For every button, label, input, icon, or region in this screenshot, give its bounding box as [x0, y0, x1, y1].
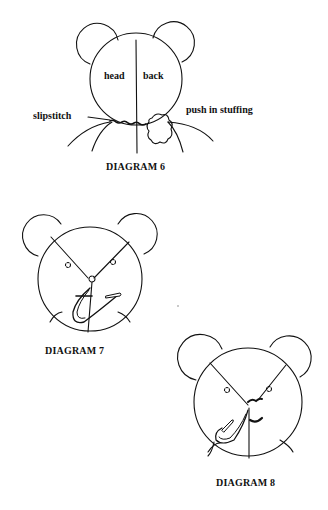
seam-left — [210, 363, 248, 405]
slipstitch-leader — [88, 117, 110, 120]
caption-diagram-8: DIAGRAM 8 — [216, 477, 275, 488]
diagram-8-bear-face — [178, 334, 312, 458]
body-right — [280, 440, 293, 452]
left-ear — [76, 23, 118, 64]
needle-icon — [222, 420, 233, 432]
left-ear — [178, 334, 222, 380]
needle-icon — [106, 293, 121, 298]
label-head: head — [104, 70, 125, 81]
label-back: back — [143, 70, 164, 81]
seam-left — [51, 237, 88, 278]
nose-stitch — [248, 399, 262, 402]
left-eye-mark — [66, 263, 71, 268]
mouth-stitch — [250, 418, 262, 422]
thread-trail — [208, 442, 214, 456]
diagram-6-bear-back — [68, 22, 213, 153]
stray-mark — [178, 306, 179, 307]
center-seam — [136, 40, 137, 153]
left-ear — [23, 215, 61, 256]
body-left-arm — [68, 122, 110, 146]
head-outline — [38, 227, 142, 331]
caption-diagram-7: DIAGRAM 7 — [45, 345, 104, 356]
diagram-7-bear-face — [23, 214, 158, 332]
caption-diagram-6: DIAGRAM 6 — [106, 161, 165, 172]
left-eye-mark — [225, 388, 230, 393]
nose-knot — [89, 276, 95, 282]
seam-right — [258, 365, 286, 400]
seam-right — [94, 242, 129, 278]
illustration-canvas — [0, 0, 328, 510]
label-slipstitch: slipstitch — [33, 110, 71, 121]
label-push-in-stuffing: push in stuffing — [186, 104, 253, 115]
right-ear — [153, 22, 194, 62]
